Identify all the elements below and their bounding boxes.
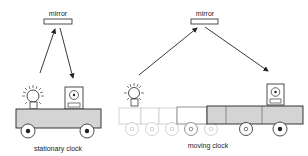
light-clock-diagram: mirror st [0,0,308,156]
light-ray-down-right [205,27,268,71]
mirror-label-left: mirror [49,10,68,17]
stationary-clock-panel: mirror st [16,10,101,153]
mirror-label-right: mirror [196,10,215,17]
mirror-right [191,19,218,24]
detector-icon [65,87,83,109]
light-ray-down-left [60,28,73,78]
caption-stationary: stationary clock [34,145,83,153]
light-ray-up-right [139,28,197,75]
moving-clock-panel: mirror [119,10,303,150]
light-source-icon [124,83,144,106]
wheel-icon [240,123,253,136]
wheel-icon [80,124,94,138]
detector-icon [267,84,284,105]
light-ray-up-left [40,29,55,73]
mirror-left [44,19,72,24]
wheel-icon [273,122,287,136]
wheel-icon [21,124,35,138]
ghost-cart-mid [177,107,207,136]
caption-moving: moving clock [188,142,229,150]
light-source-icon [22,85,44,109]
cart-body-moving [207,106,303,124]
